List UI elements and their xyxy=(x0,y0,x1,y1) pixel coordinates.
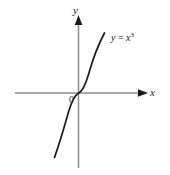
equation-exponent: 3 xyxy=(131,31,135,39)
origin-label: 0 xyxy=(69,95,74,105)
cubic-curve xyxy=(55,33,105,158)
cubic-graph-figure: y x 0 y = x3 xyxy=(0,0,170,175)
y-axis-arrowhead xyxy=(75,15,83,25)
x-axis-arrowhead xyxy=(138,89,148,97)
x-axis-label: x xyxy=(150,87,155,98)
curve-equation-label: y = x3 xyxy=(111,33,134,43)
graph-canvas xyxy=(0,0,170,175)
y-axis-label: y xyxy=(73,5,78,16)
equation-operator: = xyxy=(115,32,126,43)
